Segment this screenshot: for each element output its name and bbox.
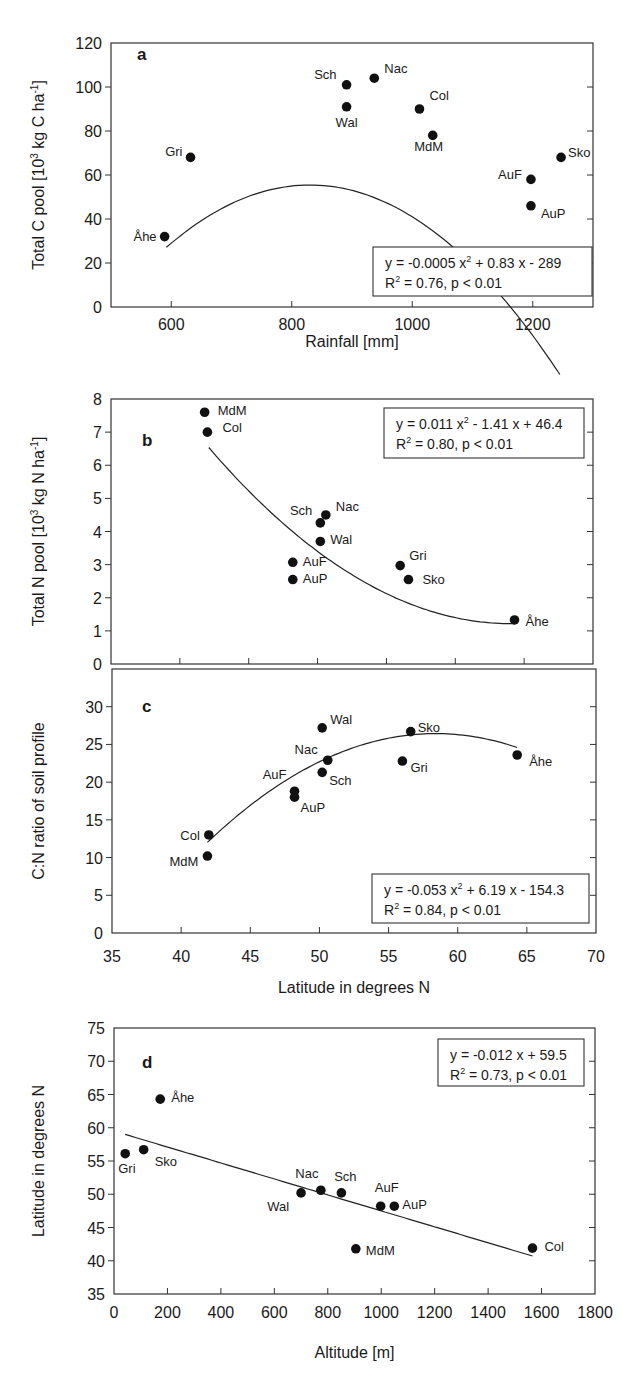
r-squared-text: R2 = 0.73, p < 0.01 (450, 1066, 567, 1083)
point-label: Åhe (171, 1090, 194, 1105)
point-label: Sko (422, 572, 444, 587)
x-tick-label: 1200 (417, 1304, 453, 1321)
data-point-Nac (369, 73, 379, 83)
x-tick-label: 70 (587, 948, 605, 965)
y-tick-label: 25 (85, 736, 103, 753)
y-tick-label: 35 (87, 1286, 105, 1303)
x-tick-label: 1000 (394, 316, 430, 333)
y-tick-label: 100 (75, 79, 102, 96)
y-axis-title: Total N pool [103 kg N ha-1] (29, 437, 47, 627)
r-squared-text: R2 = 0.80, p < 0.01 (396, 435, 513, 452)
equation-text: y = -0.0005 x2 + 0.83 x - 289 (385, 254, 561, 271)
x-tick-label: 1800 (577, 1304, 613, 1321)
y-axis-title: C:N ratio of soil profile (30, 722, 47, 879)
data-point-Nac (316, 1185, 326, 1195)
y-tick-label: 0 (94, 925, 103, 942)
point-label: Åhe (529, 754, 552, 769)
data-point-AuF (376, 1201, 386, 1211)
x-tick-label: 800 (278, 316, 305, 333)
y-tick-label: 5 (94, 887, 103, 904)
x-tick-label: 55 (380, 948, 398, 965)
data-point-Sch (342, 80, 352, 90)
y-tick-label: 30 (85, 699, 103, 716)
data-point-Sch (316, 518, 326, 528)
point-label: AuF (303, 554, 327, 569)
x-axis-title: Latitude in degrees N (278, 979, 430, 996)
point-label: Nac (384, 61, 408, 76)
x-tick-label: 40 (172, 948, 190, 965)
data-point-AuP (390, 1201, 400, 1211)
y-tick-label: 75 (87, 1020, 105, 1037)
x-tick-label: 600 (261, 1304, 288, 1321)
y-tick-label: 65 (87, 1087, 105, 1104)
y-tick-label: 80 (84, 123, 102, 140)
data-point-MdM (351, 1244, 361, 1254)
panel-a: 02040608010012060080010001200ÅheGriSchWa… (29, 35, 593, 375)
x-tick-label: 35 (103, 948, 121, 965)
data-point-Gri (120, 1149, 130, 1159)
point-label: AuF (498, 167, 522, 182)
point-label: AuP (541, 206, 566, 221)
data-point-Nac (323, 755, 333, 765)
x-tick-label: 200 (154, 1304, 181, 1321)
y-tick-label: 50 (87, 1186, 105, 1203)
x-tick-label: 0 (110, 1304, 119, 1321)
point-label: AuF (263, 767, 287, 782)
point-label: Gri (409, 548, 426, 563)
point-label: AuP (402, 1197, 427, 1212)
x-axis-title: Altitude [m] (314, 1344, 394, 1361)
x-tick-label: 60 (449, 948, 467, 965)
data-point-Sko (406, 727, 416, 737)
panel-letter: d (142, 1053, 152, 1072)
data-point-Sch (317, 768, 327, 778)
x-axis-title: Rainfall [mm] (305, 333, 398, 350)
data-point-Col (203, 427, 213, 437)
data-point-AuP (526, 201, 536, 211)
point-label: Åhe (133, 229, 156, 244)
data-point-MdM (200, 407, 210, 417)
y-tick-label: 2 (93, 590, 102, 607)
y-tick-label: 7 (93, 424, 102, 441)
y-tick-label: 70 (87, 1053, 105, 1070)
point-label: Sko (568, 145, 590, 160)
data-point-Wal (316, 537, 326, 547)
point-label: Col (222, 420, 242, 435)
point-label: Gri (410, 760, 427, 775)
point-label: Sko (155, 1154, 177, 1169)
panel-letter: c (142, 697, 151, 716)
point-label: Nac (295, 742, 319, 757)
point-label: Nac (336, 499, 360, 514)
data-point-AuF (526, 175, 536, 185)
panel-d: 3540455055606570750200400600800100012001… (30, 1020, 613, 1361)
y-tick-label: 60 (87, 1120, 105, 1137)
data-point-Sko (556, 153, 566, 163)
point-label: Gri (118, 1161, 135, 1176)
data-point-Sko (404, 575, 414, 585)
regression-curve (207, 734, 517, 843)
point-label: Gri (165, 144, 182, 159)
point-label: Sch (334, 1169, 356, 1184)
point-label: MdM (218, 403, 247, 418)
x-tick-label: 1400 (470, 1304, 506, 1321)
y-tick-label: 20 (85, 774, 103, 791)
data-point-Gri (395, 561, 405, 571)
data-point-Nac (321, 510, 331, 520)
y-axis-title: Total C pool [103 kg C ha-1] (29, 80, 47, 270)
point-label: Wal (336, 115, 358, 130)
data-point-Col (528, 1243, 538, 1253)
y-tick-label: 1 (93, 623, 102, 640)
x-tick-label: 400 (208, 1304, 235, 1321)
regression-curve (209, 448, 515, 624)
equation-text: y = -0.053 x2 + 6.19 x - 154.3 (384, 881, 564, 898)
point-label: Sch (290, 503, 312, 518)
y-tick-label: 6 (93, 457, 102, 474)
point-label: Nac (295, 1166, 319, 1181)
panel-letter: b (142, 431, 152, 450)
equation-text: y = 0.011 x2 - 1.41 x + 46.4 (396, 415, 563, 432)
y-tick-label: 4 (93, 524, 102, 541)
data-point-Åhe (510, 615, 520, 625)
x-tick-label: 1600 (524, 1304, 560, 1321)
point-label: Wal (330, 712, 352, 727)
y-tick-label: 40 (84, 211, 102, 228)
panel-letter: a (137, 45, 147, 64)
